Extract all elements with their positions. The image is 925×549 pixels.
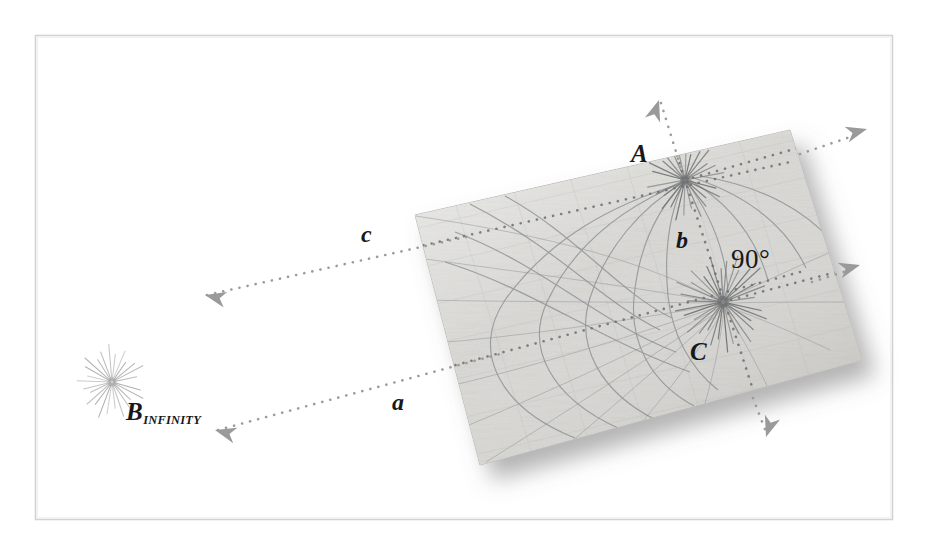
paper-surface-contents	[205, 100, 900, 480]
arrowhead-c-right	[845, 121, 869, 142]
right-angle-label: 90°	[731, 246, 770, 273]
arrowhead-right-edge	[838, 257, 862, 278]
figure-canvas: A C b c a 90° BINFINITY	[0, 0, 925, 549]
point-label-A: A	[631, 141, 648, 166]
starburst-ray	[84, 382, 111, 389]
line-label-a: a	[392, 390, 404, 414]
arrowhead-b-down	[758, 415, 780, 440]
point-label-B-main: B	[126, 398, 143, 425]
dotted-line-a	[218, 354, 500, 430]
starburst-ray	[77, 381, 110, 382]
point-label-C: C	[690, 339, 707, 364]
line-label-b: b	[676, 228, 688, 252]
dotted-line-b-down	[753, 398, 766, 432]
line-label-c: c	[361, 222, 372, 246]
figure-illustration	[0, 0, 925, 549]
point-label-B-infinity: BINFINITY	[126, 399, 201, 424]
starburst-ray	[114, 383, 140, 391]
point-label-B-subscript: INFINITY	[143, 413, 201, 427]
